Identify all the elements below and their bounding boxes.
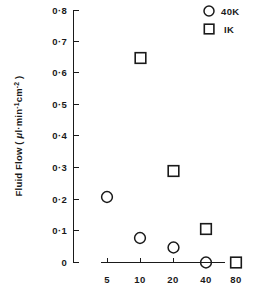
y-tick-label-0-7: 0·7: [52, 36, 67, 47]
y-tick-label-0-8: 0·8: [52, 5, 67, 16]
legend-label-40k: 40K: [221, 6, 240, 17]
fluid-flow-scatter-chart: 0·8 0·7 0·6 0·5 0·4 0·3 0·2 0·1 0 Fluid …: [0, 0, 266, 293]
data-point-40k-5: [102, 192, 113, 203]
x-tick-label-10: 10: [134, 274, 145, 285]
y-tick-label-0-4: 0·4: [52, 130, 67, 141]
y-tick-label-0-3: 0·3: [52, 162, 67, 173]
y-axis-title-unit2: cm: [13, 88, 24, 102]
data-point-40k-10: [135, 233, 146, 244]
data-point-ik-10: [135, 53, 146, 64]
svg-text:Fluid Flow ( μl·min-1cm-2 ): Fluid Flow ( μl·min-1cm-2 ): [13, 76, 25, 197]
y-tick-label-0-5: 0·5: [52, 99, 67, 110]
y-axis-title-main: Fluid Flow (: [13, 138, 24, 196]
y-tick-label-0-2: 0·2: [52, 194, 67, 205]
data-point-40k-20: [168, 242, 179, 253]
y-axis-title-close: ): [13, 76, 24, 82]
y-tick-label-0: 0: [61, 257, 67, 268]
chart-legend: 40K IK: [204, 6, 240, 35]
x-tick-label-5: 5: [104, 274, 110, 285]
y-axis-title-mu: μ: [13, 132, 24, 139]
y-axis-title-unit1: l·min: [13, 109, 24, 133]
legend-marker-square-icon: [204, 24, 214, 34]
legend-marker-circle-icon: [204, 6, 214, 16]
y-tick-label-0-6: 0·6: [52, 67, 67, 78]
data-point-ik-20: [168, 166, 179, 177]
chart-container: 0·8 0·7 0·6 0·5 0·4 0·3 0·2 0·1 0 Fluid …: [0, 0, 266, 293]
y-tick-label-0-1: 0·1: [52, 225, 67, 236]
legend-label-ik: IK: [224, 24, 234, 35]
x-tick-label-80: 80: [230, 274, 241, 285]
x-tick-label-20: 20: [167, 274, 178, 285]
y-axis-title: Fluid Flow ( μl·min-1cm-2 ): [13, 76, 25, 197]
x-tick-label-40: 40: [200, 274, 211, 285]
data-point-ik-80: [231, 257, 242, 268]
data-point-ik-40: [201, 224, 212, 235]
